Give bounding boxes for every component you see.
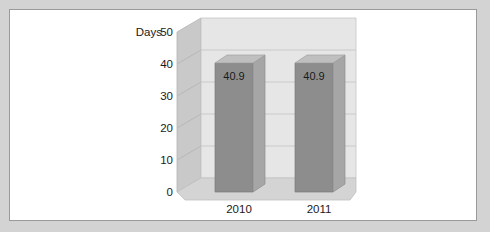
bar-side-face [333,55,345,192]
y-axis-title: Days [136,26,162,38]
y-tick-label: 10 [160,154,173,166]
bar-front-face [215,63,253,192]
plot-left-wall [177,18,201,192]
bar-value-label: 40.9 [303,70,324,82]
x-axis-category-labels: 2010 2011 [226,203,331,215]
x-category-label: 2011 [307,203,332,215]
bar-value-label: 40.9 [223,70,244,82]
screenshot-root: Days 50 40 30 20 10 0 [0,0,490,232]
y-tick-label: 0 [167,186,173,198]
chart-svg: Days 50 40 30 20 10 0 [10,10,478,222]
bar-side-face [253,55,265,192]
bar-2010[interactable]: 40.9 [215,55,265,192]
y-tick-label: 40 [160,58,173,70]
y-tick-label: 20 [160,122,173,134]
bar-2011[interactable]: 40.9 [295,55,345,192]
y-tick-label: 30 [160,90,173,102]
chart-card: Days 50 40 30 20 10 0 [9,9,477,221]
bar-front-face [295,63,333,192]
y-tick-label: 50 [160,26,173,38]
y-axis-tick-labels: 50 40 30 20 10 0 [160,26,173,198]
x-category-label: 2010 [226,203,252,215]
bar-chart-3d: Days 50 40 30 20 10 0 [10,10,478,222]
